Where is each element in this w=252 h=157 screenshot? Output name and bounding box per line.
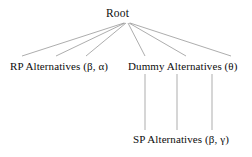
tree-diagram: Root RP Alternatives (β, α) Dummy Altern…: [0, 0, 252, 157]
node-rp-alternatives: RP Alternatives (β, α): [10, 61, 108, 72]
edge-root-sp-2: [129, 23, 186, 56]
node-root: Root: [106, 8, 129, 20]
node-dummy-alternatives: Dummy Alternatives (θ): [128, 61, 238, 72]
node-sp-alternatives: SP Alternatives (β, γ): [133, 134, 229, 145]
edge-root-rp-1: [22, 23, 124, 56]
edge-root-rp-2: [56, 23, 125, 56]
edge-root-rp-3: [86, 23, 126, 56]
edge-root-sp-1: [128, 23, 145, 56]
edge-root-sp-3: [130, 23, 231, 56]
